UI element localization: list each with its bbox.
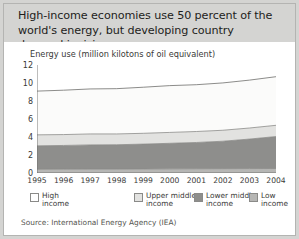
x-tick-label: 1995 xyxy=(27,176,46,185)
legend-label: Low income xyxy=(261,192,288,209)
source-note: Source: International Energy Agency (IEA… xyxy=(21,218,176,227)
y-tick-label: 10 xyxy=(23,79,33,88)
x-tick-label: 2004 xyxy=(266,176,285,185)
y-tick-label: 2 xyxy=(28,151,33,160)
x-tick-label: 1999 xyxy=(134,176,153,185)
legend-label: High income xyxy=(42,192,69,209)
legend-item[interactable]: Lower middle income xyxy=(194,192,256,209)
stacked-area-plot xyxy=(37,65,276,173)
x-axis-labels: 1995199619971998199920002001200220032004 xyxy=(37,176,276,188)
legend-swatch xyxy=(134,193,143,202)
legend-label: Upper middle income xyxy=(146,192,196,209)
legend-item[interactable]: Low income xyxy=(249,192,288,209)
area-band-high-income xyxy=(37,77,276,135)
x-tick-label: 2001 xyxy=(187,176,206,185)
legend-swatch xyxy=(194,193,203,202)
figure-container: High-income economies use 50 percent of … xyxy=(0,0,299,239)
chart-legend: High incomeUpper middle incomeLower midd… xyxy=(30,192,280,214)
y-tick-label: 8 xyxy=(28,97,33,106)
legend-item[interactable]: High income xyxy=(30,192,69,209)
x-tick-label: 1998 xyxy=(107,176,126,185)
x-tick-label: 2003 xyxy=(240,176,259,185)
y-tick-label: 12 xyxy=(23,61,33,70)
legend-item[interactable]: Upper middle income xyxy=(134,192,196,209)
x-tick-label: 2002 xyxy=(213,176,232,185)
y-axis-labels: 024681012 xyxy=(16,65,33,173)
x-tick-label: 1997 xyxy=(80,176,99,185)
legend-swatch xyxy=(30,193,39,202)
x-tick-label: 1996 xyxy=(54,176,73,185)
headline: High-income economies use 50 percent of … xyxy=(4,4,295,42)
y-tick-label: 6 xyxy=(28,115,33,124)
chart-card: Energy use (million kilotons of oil equi… xyxy=(4,42,295,235)
y-tick-label: 4 xyxy=(28,133,33,142)
legend-swatch xyxy=(249,193,258,202)
chart-subtitle: Energy use (million kilotons of oil equi… xyxy=(30,49,215,59)
x-tick-label: 2000 xyxy=(160,176,179,185)
